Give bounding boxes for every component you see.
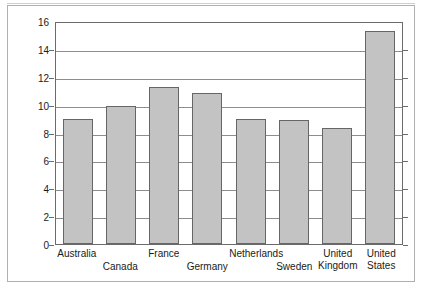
bar (322, 128, 352, 244)
x-axis-category-label: Germany (186, 248, 229, 286)
y-axis-tick-mark (49, 245, 54, 246)
x-axis-category-labels: AustraliaCanadaFranceGermanyNetherlandsS… (55, 248, 403, 286)
right-axis-tick-mark (403, 134, 408, 135)
bar (106, 106, 136, 244)
bar (149, 87, 179, 244)
plot-area (55, 22, 403, 245)
x-axis-category-label: Netherlands (229, 248, 272, 286)
x-axis-category-label: United States (360, 248, 403, 286)
x-axis-category-label: Sweden (273, 248, 316, 286)
right-axis-tick-mark (403, 106, 408, 107)
chart-figure: 1614121086420 % GDP AustraliaCanadaFranc… (0, 0, 422, 287)
right-axis-tick-mark (403, 217, 408, 218)
bar (236, 119, 266, 244)
right-axis-tick-mark (403, 161, 408, 162)
frame-top-edge (7, 3, 415, 4)
bar (63, 119, 93, 244)
right-axis-tick-mark (403, 189, 408, 190)
x-axis-category-label: United Kingdom (316, 248, 359, 286)
bar (192, 93, 222, 244)
right-axis-tick-mark (403, 50, 408, 51)
right-axis-tick-mark (403, 78, 408, 79)
right-axis-tick-mark (403, 245, 408, 246)
x-axis-category-label: France (142, 248, 185, 286)
bar-series (56, 23, 402, 244)
bar (365, 31, 395, 244)
x-axis-category-label: Australia (55, 248, 98, 286)
x-axis-category-label: Canada (99, 248, 142, 286)
bar (279, 120, 309, 244)
